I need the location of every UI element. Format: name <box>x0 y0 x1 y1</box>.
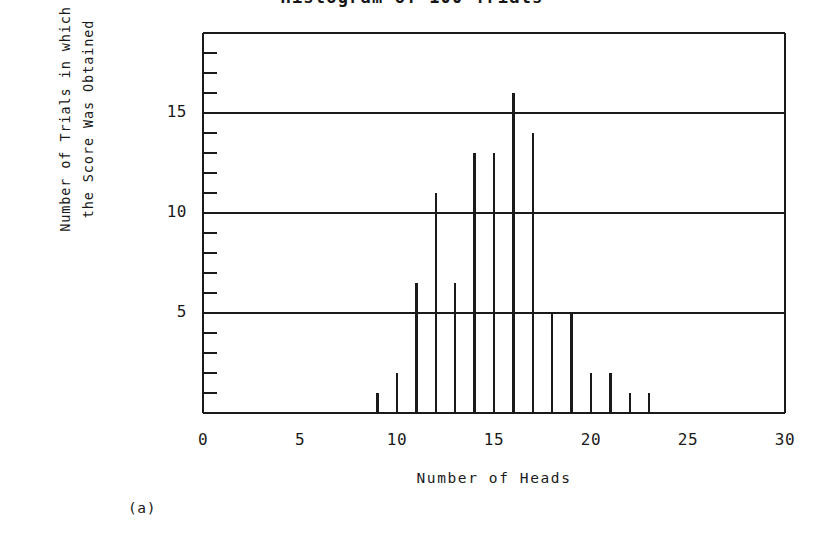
x-tick-label: 20 <box>571 430 611 449</box>
plot-area <box>0 0 824 537</box>
x-tick-label: 25 <box>668 430 708 449</box>
y-tick-label: 5 <box>145 302 187 321</box>
x-tick-label: 5 <box>280 430 320 449</box>
x-tick-label: 15 <box>474 430 514 449</box>
figure-panel-a: Histogram of 100 Trials Number of Trials… <box>0 0 824 537</box>
x-tick-label: 30 <box>765 430 805 449</box>
y-tick-label: 10 <box>145 202 187 221</box>
x-tick-label: 10 <box>377 430 417 449</box>
panel-label: (a) <box>128 500 156 516</box>
y-tick-label: 15 <box>145 102 187 121</box>
x-axis-label: Number of Heads <box>203 470 785 486</box>
x-tick-label: 0 <box>183 430 223 449</box>
